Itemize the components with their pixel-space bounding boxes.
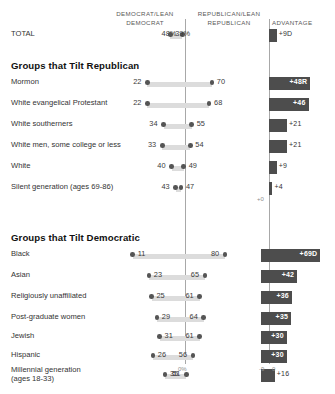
democrat-value: 22 — [99, 77, 141, 86]
advantage-label: +36 — [276, 292, 288, 299]
section-title-democratic: Groups that Tilt Democratic — [11, 232, 140, 243]
row-label: TOTAL — [11, 29, 141, 38]
table-row[interactable]: White men, some college or less3354+21 — [0, 138, 335, 156]
row-label: Millennial generation(ages 18-33) — [11, 365, 141, 383]
republican-value: 11 — [138, 249, 180, 258]
republican-dot[interactable] — [157, 334, 162, 339]
republican-dot[interactable] — [179, 185, 184, 190]
row-label: Post-graduate women — [11, 312, 141, 321]
advantage-label: +21 — [289, 141, 301, 148]
axis-tick-zero-percent: 0% — [178, 366, 187, 372]
republican-value: 68 — [214, 98, 256, 107]
axis-tick-advantage-zero: 0 — [272, 366, 275, 372]
axis-tick-advantage-plus0: +0 — [257, 196, 264, 202]
table-row[interactable]: Millennial generation(ages 18-33)5135+16 — [0, 367, 335, 385]
column-header-democrat-line2: DEMOCRAT — [104, 18, 186, 27]
republican-dot[interactable] — [149, 294, 154, 299]
republican-value: 25 — [157, 291, 199, 300]
democrat-value: 22 — [99, 98, 141, 107]
republican-value: 49 — [189, 161, 231, 170]
row-label: Black — [11, 249, 141, 258]
republican-dot[interactable] — [155, 315, 160, 320]
democrat-dot[interactable] — [145, 80, 150, 85]
column-header-democrat: DEMOCRAT/LEAN DEMOCRAT — [104, 9, 186, 27]
republican-value: 31 — [165, 331, 207, 340]
column-header-republican-line2: REPUBLICAN — [188, 18, 270, 27]
table-row[interactable]: Religiously unaffiliated6125+36 — [0, 289, 335, 307]
democrat-dot[interactable] — [173, 185, 178, 190]
republican-value: 29 — [162, 312, 204, 321]
dumbbell-track — [147, 82, 211, 87]
republican-dot[interactable] — [151, 353, 156, 358]
republican-dot[interactable] — [188, 143, 193, 148]
republican-dot[interactable] — [147, 273, 152, 278]
table-row[interactable]: White southerners3455+21 — [0, 117, 335, 135]
republican-value: 47 — [186, 182, 228, 191]
democrat-value: 40 — [124, 161, 166, 170]
row-label: Religiously unaffiliated — [11, 291, 141, 300]
advantage-label: +30 — [271, 351, 283, 358]
table-row[interactable]: Mormon2270+48R — [0, 75, 335, 93]
republican-dot[interactable] — [181, 164, 186, 169]
republican-dot[interactable] — [163, 372, 168, 377]
table-row[interactable]: Post-graduate women6429+35 — [0, 310, 335, 328]
democrat-value: 80 — [177, 249, 219, 258]
republican-dot[interactable] — [130, 252, 135, 257]
republican-value: 35 — [170, 369, 212, 378]
democrat-value: 34 — [116, 119, 158, 128]
democrat-dot[interactable] — [161, 122, 166, 127]
table-row[interactable]: Silent generation (ages 69-86)4347+4 — [0, 180, 335, 198]
dumbbell-track — [164, 124, 192, 129]
advantage-bar[interactable] — [269, 161, 277, 174]
dumbbell-track — [147, 103, 209, 108]
republican-dot[interactable] — [189, 122, 194, 127]
advantage-label: +46 — [293, 99, 305, 106]
republican-value: 26 — [158, 350, 200, 359]
republican-value: 39% — [175, 29, 217, 38]
democrat-value: 43 — [128, 182, 170, 191]
party-identification-chart: DEMOCRAT/LEAN DEMOCRAT REPUBLICAN/LEAN R… — [0, 0, 335, 394]
republican-value: 70 — [217, 77, 259, 86]
republican-value: 55 — [197, 119, 239, 128]
advantage-bar[interactable] — [269, 140, 287, 153]
democrat-dot[interactable] — [223, 252, 228, 257]
advantage-bar[interactable] — [269, 182, 272, 195]
democrat-dot[interactable] — [169, 164, 174, 169]
table-row[interactable]: White evangelical Protestant2268+46 — [0, 96, 335, 114]
table-row[interactable]: Black8011+69D — [0, 247, 335, 265]
row-label: White — [11, 161, 141, 170]
table-row[interactable]: TOTAL48%39%+9D — [0, 27, 335, 45]
column-header-democrat-line1: DEMOCRAT/LEAN — [104, 9, 186, 18]
advantage-label: +48R — [290, 78, 308, 85]
advantage-label: +30 — [271, 332, 283, 339]
republican-dot[interactable] — [168, 32, 173, 37]
democrat-dot[interactable] — [160, 143, 165, 148]
democrat-value: 33 — [114, 140, 156, 149]
column-header-republican: REPUBLICAN/LEAN REPUBLICAN — [188, 9, 270, 27]
advantage-label: +16 — [277, 370, 289, 377]
table-row[interactable]: Asian6523+42 — [0, 268, 335, 286]
advantage-label: +4 — [274, 183, 282, 190]
republican-dot[interactable] — [207, 101, 212, 106]
row-label: Silent generation (ages 69-86) — [11, 182, 141, 191]
advantage-label: +35 — [276, 313, 288, 320]
row-label: Jewish — [11, 331, 141, 340]
axis-tick-advantage-neg9: -9 — [259, 366, 264, 372]
row-label: Asian — [11, 270, 141, 279]
column-header-republican-line1: REPUBLICAN/LEAN — [188, 9, 270, 18]
advantage-bar[interactable] — [269, 29, 277, 42]
republican-dot[interactable] — [210, 80, 215, 85]
democrat-dot[interactable] — [203, 273, 208, 278]
row-label: Hispanic — [11, 350, 141, 359]
advantage-label: +42 — [282, 271, 294, 278]
table-row[interactable]: Jewish6131+30 — [0, 329, 335, 347]
table-row[interactable]: White4049+9 — [0, 159, 335, 177]
advantage-label: +9D — [279, 30, 293, 37]
table-row[interactable]: Hispanic5626+30 — [0, 348, 335, 366]
advantage-bar[interactable] — [269, 119, 287, 132]
democrat-dot[interactable] — [145, 101, 150, 106]
advantage-label: +69D — [300, 250, 318, 257]
row-label-line2: (ages 18-33) — [11, 374, 141, 383]
republican-value: 23 — [154, 270, 196, 279]
advantage-label: +21 — [289, 120, 301, 127]
